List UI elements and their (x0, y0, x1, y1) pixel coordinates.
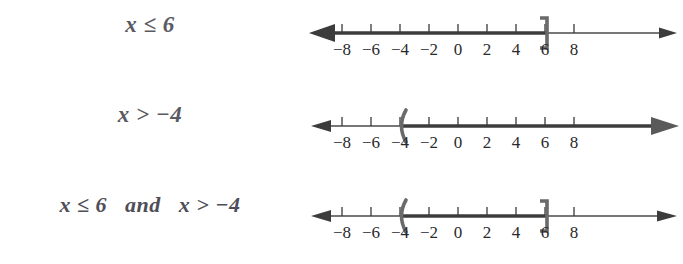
tick-label: 8 (557, 133, 591, 153)
arrow-left-icon (311, 120, 331, 132)
number-line-row-1: x > −4 −8 −6 (0, 90, 683, 178)
inequality-expression-2: x ≤ 6 and x > −4 (0, 188, 300, 222)
tick-label: 8 (557, 223, 591, 243)
arrow-left-icon (311, 210, 331, 222)
tick-label-group-0: −8 −6 −4 −2 0 2 4 6 8 (305, 40, 683, 70)
arrow-right-icon (659, 28, 677, 39)
arrow-right-icon (657, 211, 677, 222)
tick-label-group-2: −8 −6 −4 −2 0 2 4 6 8 (305, 223, 683, 253)
number-line-row-0: x ≤ 6 (0, 0, 683, 88)
inequality-expression-1: x > −4 (0, 98, 300, 132)
number-line-row-2: x ≤ 6 and x > −4 (0, 180, 683, 264)
inequality-expression-0: x ≤ 6 (0, 8, 300, 42)
tick-label-group-1: −8 −6 −4 −2 0 2 4 6 8 (305, 133, 683, 163)
tick-label: 8 (557, 40, 591, 60)
